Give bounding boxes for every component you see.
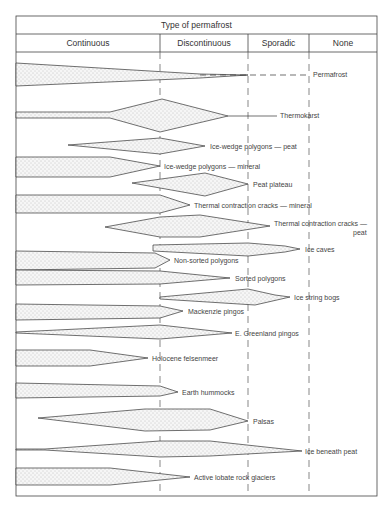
label-tcc-peat: Thermal contraction cracks — bbox=[274, 219, 367, 228]
label-holocene-felsenmeer: Holocene felsenmeer bbox=[152, 354, 218, 363]
column-sporadic: Sporadic bbox=[248, 38, 309, 48]
label-ice-wedge-peat: Ice-wedge polygons — peat bbox=[210, 142, 297, 151]
label-thermokarst: Thermokarst bbox=[280, 111, 319, 120]
label-non-sorted-polygons: Non-sorted polygons bbox=[174, 256, 239, 265]
label-e-greenland-pingos: E. Greenland pingos bbox=[235, 329, 299, 338]
column-none: None bbox=[309, 38, 377, 48]
shape-peat-plateau bbox=[132, 173, 248, 196]
shape-ice-beneath-peat bbox=[16, 441, 302, 457]
label-permafrost: Permafrost bbox=[313, 70, 347, 79]
shape-sorted-polygons bbox=[16, 270, 230, 285]
shape-active-lobate-rock-glaciers bbox=[16, 468, 190, 485]
shape-holocene-felsenmeer bbox=[16, 350, 148, 366]
shape-tcc-peat bbox=[105, 215, 270, 237]
shape-non-sorted-polygons bbox=[16, 251, 170, 270]
label-mackenzie-pingos: Mackenzie pingos bbox=[188, 307, 244, 316]
shape-e-greenland-pingos bbox=[16, 325, 232, 339]
shape-permafrost bbox=[16, 63, 248, 86]
label-tcc-mineral: Thermal contraction cracks — mineral bbox=[194, 201, 312, 210]
shape-tcc-mineral bbox=[16, 195, 190, 213]
label-tcc-peat-line2: peat bbox=[353, 228, 367, 237]
shape-palsas bbox=[38, 409, 248, 431]
label-earth-hummocks: Earth hummocks bbox=[182, 388, 235, 397]
column-discontinuous: Discontinuous bbox=[160, 38, 248, 48]
header-title: Type of permafrost bbox=[16, 20, 377, 30]
label-active-lobate-rock-glaciers: Active lobate rock glaciers bbox=[194, 473, 275, 482]
column-continuous: Continuous bbox=[16, 38, 160, 48]
label-peat-plateau: Peat plateau bbox=[253, 180, 292, 189]
shape-ice-wedge-peat bbox=[68, 138, 205, 154]
label-ice-beneath-peat: Ice beneath peat bbox=[305, 447, 357, 456]
label-palsas: Palsas bbox=[253, 417, 274, 426]
label-ice-string-bogs: Ice string bogs bbox=[294, 293, 340, 302]
shape-thermokarst bbox=[16, 99, 228, 132]
shape-mackenzie-pingos bbox=[16, 304, 183, 320]
label-ice-caves: Ice caves bbox=[305, 245, 335, 254]
label-sorted-polygons: Sorted polygons bbox=[235, 274, 286, 283]
shape-ice-string-bogs bbox=[160, 289, 290, 305]
shape-ice-wedge-mineral bbox=[16, 157, 160, 177]
label-ice-wedge-mineral: Ice-wedge polygons — mineral bbox=[164, 162, 260, 171]
shape-ice-caves bbox=[153, 243, 300, 256]
shape-earth-hummocks bbox=[16, 383, 178, 398]
